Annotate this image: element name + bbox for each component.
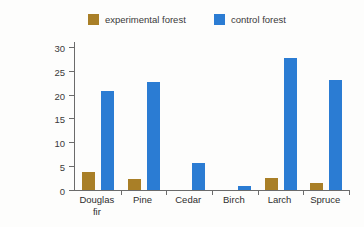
y-axis-tick-label: 25	[54, 66, 65, 77]
bar-group	[121, 42, 167, 190]
legend-swatch-control-forest	[214, 14, 225, 25]
y-axis-tick-label: 0	[60, 186, 65, 197]
x-axis-labels: DouglasfirPineCedarBirchLarchSpruce	[74, 192, 348, 226]
x-axis-label-line: Birch	[211, 194, 257, 206]
x-axis-label-line: Spruce	[302, 194, 348, 206]
bar-control	[101, 91, 114, 190]
bar-control	[147, 82, 160, 190]
x-axis-tick	[349, 190, 350, 195]
legend-entry-control-forest: control forest	[214, 11, 286, 27]
y-axis-tick-label: 15	[54, 114, 65, 125]
bar-chart-figure: experimental forest control forest Perce…	[0, 0, 364, 227]
legend-entry-experimental-forest: experimental forest	[88, 11, 186, 27]
x-axis-label: Birch	[211, 192, 257, 226]
y-axis-tick-label: 30	[54, 42, 65, 53]
bar-group	[75, 42, 121, 190]
x-axis-label-line: Larch	[257, 194, 303, 206]
x-axis-label-line: Cedar	[165, 194, 211, 206]
chart-legend: experimental forest control forest	[88, 11, 338, 27]
bar-control	[284, 58, 297, 190]
bar-group	[212, 42, 258, 190]
bar-group	[166, 42, 212, 190]
bar-experimental	[310, 183, 323, 190]
plot-area: 051015202530	[74, 42, 349, 191]
bar-experimental	[128, 179, 141, 190]
bar-group	[303, 42, 349, 190]
legend-swatch-experimental-forest	[88, 14, 99, 25]
x-axis-label: Larch	[257, 192, 303, 226]
y-axis-tick-label: 20	[54, 90, 65, 101]
x-axis-label-line: fir	[74, 206, 120, 218]
x-axis-label: Cedar	[165, 192, 211, 226]
x-axis-label: Pine	[120, 192, 166, 226]
bar-control	[329, 80, 342, 190]
x-axis-label: Spruce	[302, 192, 348, 226]
bar-groups	[75, 42, 349, 190]
bar-control	[238, 186, 251, 190]
x-axis-label: Douglasfir	[74, 192, 120, 226]
x-axis-label-line: Pine	[120, 194, 166, 206]
bar-experimental	[265, 178, 278, 190]
legend-label-experimental-forest: experimental forest	[105, 14, 186, 25]
bar-group	[258, 42, 304, 190]
y-axis-tick-label: 5	[60, 162, 65, 173]
y-axis-tick-label: 10	[54, 138, 65, 149]
legend-label-control-forest: control forest	[231, 14, 286, 25]
bar-experimental	[82, 172, 95, 190]
y-axis-tick: 0	[69, 190, 75, 191]
bar-control	[192, 163, 205, 190]
x-axis-label-line: Douglas	[74, 194, 120, 206]
